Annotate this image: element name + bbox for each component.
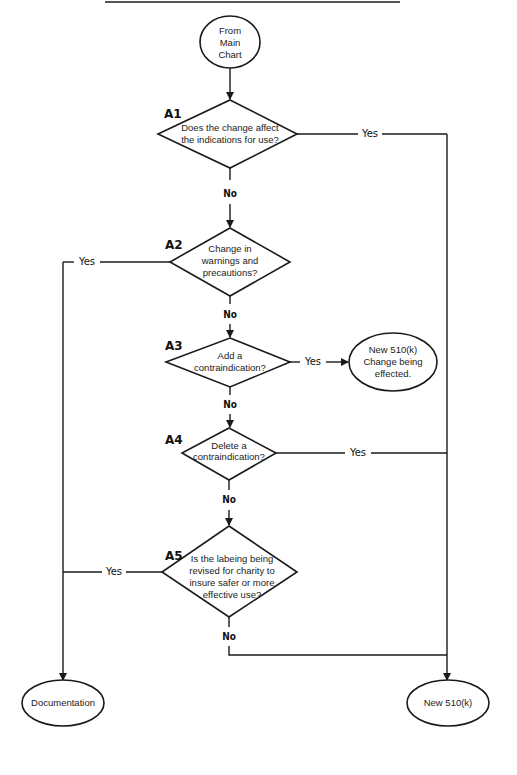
step-label-a4: A4 <box>165 433 183 447</box>
decision-a3: A3 Add acontraindication? <box>165 338 290 387</box>
svg-text:New 510(k): New 510(k) <box>424 697 473 708</box>
a1-no-label: No <box>223 188 237 199</box>
step-label-a3: A3 <box>165 339 183 353</box>
decision-a4: A4 Delete acontraindication? <box>165 428 276 480</box>
terminal-new-510k: New 510(k) <box>407 680 489 726</box>
terminal-documentation: Documentation <box>22 680 104 726</box>
a4-yes-label: Yes <box>349 447 366 458</box>
a2-no-label: No <box>223 309 237 320</box>
a1-yes-label: Yes <box>361 128 378 139</box>
svg-text:Change inwarnings andprecautio: Change inwarnings andprecautions? <box>201 243 259 278</box>
svg-text:FromMainChart: FromMainChart <box>218 25 242 60</box>
step-label-a5: A5 <box>165 549 183 563</box>
a3-yes-label: Yes <box>304 356 321 367</box>
edge-a5-no-2 <box>229 646 447 655</box>
terminal-new-510k-change: New 510(k)Change beingeffected. <box>349 333 437 391</box>
a3-no-label: No <box>223 399 237 410</box>
svg-text:Does the change affectthe indi: Does the change affectthe indications fo… <box>181 122 279 145</box>
a5-no-label: No <box>222 631 236 642</box>
flowchart: FromMainChart A1 Does the change affectt… <box>0 0 517 775</box>
start-node: FromMainChart <box>200 16 260 68</box>
a2-yes-label: Yes <box>78 256 95 267</box>
decision-a1: A1 Does the change affectthe indications… <box>158 100 297 168</box>
a5-yes-label: Yes <box>105 566 122 577</box>
step-label-a2: A2 <box>165 238 183 252</box>
decision-a2: A2 Change inwarnings andprecautions? <box>165 228 290 296</box>
a4-no-label: No <box>222 494 236 505</box>
decision-a5: A5 Is the labeing beingrevised for chari… <box>162 526 297 617</box>
svg-text:Documentation: Documentation <box>31 697 95 708</box>
step-label-a1: A1 <box>164 107 182 121</box>
